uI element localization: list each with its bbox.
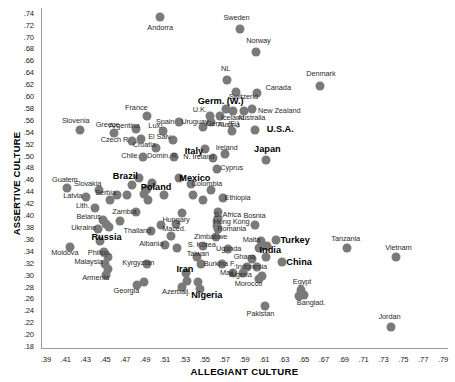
data-point-label: Thailand [124, 227, 152, 235]
data-point-label: N. Ireland [183, 153, 214, 161]
data-point-label: India [260, 246, 281, 254]
data-point-label: Morocco [235, 280, 263, 288]
y-tick-label: .66 [8, 56, 34, 65]
data-point-label: Lith. [76, 202, 89, 210]
x-tick-label: .73 [372, 355, 394, 364]
data-point-label: Tanzania [331, 235, 360, 243]
data-point-label: Canada [266, 84, 291, 92]
x-tick-label: .49 [134, 355, 156, 364]
data-point[interactable] [75, 125, 84, 134]
y-tick-label: .32 [8, 258, 34, 267]
data-point-label: U.S.A. [267, 125, 294, 133]
data-point[interactable] [252, 48, 261, 57]
data-point-label: Azerbaij. [162, 288, 190, 296]
data-point-label: Malaysia [74, 258, 102, 266]
y-tick-label: .34 [8, 246, 34, 255]
data-point-label: Cyprus [220, 164, 243, 172]
data-point[interactable] [140, 277, 149, 286]
data-point-label: Poland [141, 183, 172, 191]
data-point-label: Albania [139, 240, 163, 248]
data-point[interactable] [143, 112, 152, 121]
data-point[interactable] [193, 277, 202, 286]
y-tick-label: .28 [8, 282, 34, 291]
scatter-plot-figure: .74.72.70.68.66.64.62.60.58.56.54.52.50.… [0, 0, 455, 382]
data-point[interactable] [172, 243, 181, 252]
x-tick-label: .59 [234, 355, 256, 364]
data-point[interactable] [123, 190, 132, 199]
data-point-label: NL [221, 65, 230, 73]
data-point-label: Ukraine [71, 224, 96, 232]
data-point-label: China [286, 258, 312, 266]
data-point[interactable] [262, 155, 271, 164]
x-tick-label: .71 [353, 355, 375, 364]
data-point[interactable] [392, 252, 401, 261]
data-point[interactable] [198, 196, 207, 205]
data-point-label: Turkey [280, 236, 309, 244]
x-tick-label: .63 [273, 355, 295, 364]
y-tick-label: .68 [8, 44, 34, 53]
y-tick-label: .58 [8, 103, 34, 112]
data-point-label: Pakistan [247, 310, 275, 318]
y-tick-label: .22 [8, 318, 34, 327]
data-point-label: Armenia [82, 274, 109, 282]
data-point-label: Serbia [95, 189, 116, 197]
data-point[interactable] [105, 223, 114, 232]
data-point-label: Colombia [192, 180, 222, 188]
data-point[interactable] [160, 190, 169, 199]
data-point-label: Norway [246, 37, 270, 45]
data-point-label: Austria [217, 121, 239, 129]
x-tick-label: .65 [293, 355, 315, 364]
data-point-label: Mali [220, 269, 233, 277]
data-point[interactable] [188, 190, 197, 199]
plot-area [41, 8, 448, 349]
x-tick-label: .53 [174, 355, 196, 364]
data-point-label: Denmark [306, 70, 335, 78]
data-point[interactable] [156, 12, 165, 21]
data-point-label: Moldova [51, 249, 78, 257]
data-point-label: Chile [121, 152, 137, 160]
y-tick-label: .62 [8, 80, 34, 89]
data-point-label: Czech R. [101, 136, 131, 144]
data-point[interactable] [315, 81, 324, 90]
data-point[interactable] [103, 264, 112, 273]
y-tick-label: .70 [8, 32, 34, 41]
data-point-label: Malta [243, 236, 261, 244]
x-tick-label: .39 [35, 355, 57, 364]
data-point-label: U.K. [193, 106, 207, 114]
data-point[interactable] [387, 322, 396, 331]
data-point-label: Slovakia [74, 180, 101, 188]
data-point-label: Banglad. [297, 299, 325, 307]
data-point-label: Russia [91, 233, 121, 241]
data-point-label: Ireland [216, 144, 238, 152]
y-tick-label: .20 [8, 330, 34, 339]
data-point[interactable] [128, 181, 137, 190]
data-point-label: Greece [96, 121, 120, 129]
data-point[interactable] [342, 243, 351, 252]
y-tick-label: .72 [8, 20, 34, 29]
data-point-label: Maced. [162, 225, 186, 233]
data-point[interactable] [116, 217, 125, 226]
data-point[interactable] [182, 276, 191, 285]
data-point[interactable] [251, 221, 260, 230]
data-point[interactable] [251, 125, 260, 134]
y-tick-label: .30 [8, 270, 34, 279]
data-point-label: Jordan [378, 313, 400, 321]
data-point-label: Vietnam [385, 244, 411, 252]
data-point-label: Hungary [162, 216, 189, 224]
y-tick-label: .18 [8, 342, 34, 351]
data-point[interactable] [144, 196, 153, 205]
data-point-label: Germ. (W.) [198, 97, 244, 105]
x-tick-label: .75 [392, 355, 414, 364]
data-point-label: Belarus [76, 213, 100, 221]
data-point[interactable] [222, 76, 231, 85]
data-point-label: Burkina F. [204, 260, 236, 268]
data-point[interactable] [235, 25, 244, 34]
data-point-label: Andorra [147, 24, 173, 32]
x-tick-label: .77 [412, 355, 434, 364]
data-point-label: Ghana [234, 253, 256, 261]
data-point-label: Bosnia [243, 212, 265, 220]
data-point-label: Philipp. [88, 249, 111, 257]
data-point-label: Georgia [114, 287, 140, 295]
data-point-label: Lux. [148, 122, 162, 130]
x-tick-label: .45 [95, 355, 117, 364]
